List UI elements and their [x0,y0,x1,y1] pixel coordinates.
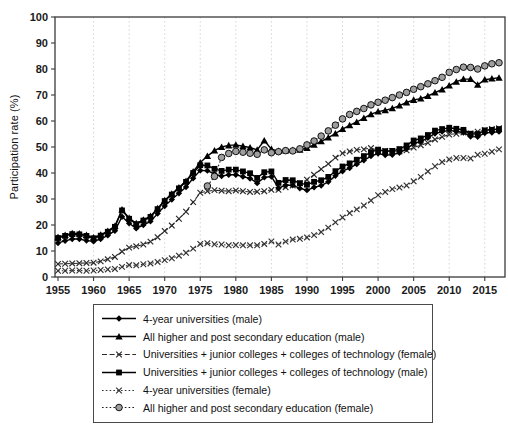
y-tick-label: 10 [36,245,48,257]
legend-item-0: 4-year universities (male) [101,310,424,328]
x-tick-label: 1990 [295,284,319,296]
data-series-3 [55,125,502,241]
legend-item-1: All higher and post secondary education … [101,328,424,346]
legend: 4-year universities (male)All higher and… [93,304,433,423]
y-tick-label: 0 [42,271,48,283]
x-tick-label: 2005 [401,284,425,296]
x-tick-label: 1995 [330,284,354,296]
y-axis-title: Participation rate (%) [8,66,20,228]
y-tick-label: 30 [36,193,48,205]
legend-item-2: Universities + junior colleges + college… [101,346,424,364]
y-tick-label: 90 [36,37,48,49]
y-tick-label: 50 [36,141,48,153]
x-tick-label: 1965 [117,284,141,296]
legend-label: 4-year universities (male) [143,313,262,325]
legend-label: All higher and post secondary education … [143,331,364,343]
square-marker-icon [101,366,137,379]
y-tick-label: 80 [36,63,48,75]
legend-label: 4-year universities (female) [143,384,271,396]
plot-border [55,17,505,277]
triangle-marker-icon [101,330,137,343]
x-tick-label: 2000 [366,284,390,296]
x-tick-label: 2010 [437,284,461,296]
y-tick-label: 70 [36,89,48,101]
x-marker-icon [101,348,137,361]
y-tick-label: 100 [30,11,48,23]
chart-figure: 0102030405060708090100195519601965197019… [0,0,508,427]
legend-item-3: Universities + junior colleges + college… [101,363,424,381]
x-tick-label: 1960 [81,284,105,296]
x-tick-label: 1955 [46,284,70,296]
x-tick-label: 1980 [224,284,248,296]
legend-label: Universities + junior colleges + college… [143,366,427,378]
y-tick-label: 40 [36,167,48,179]
x-tick-label: 1975 [188,284,212,296]
x-tick-label: 2015 [473,284,497,296]
diamond-marker-icon [101,312,137,325]
x-tick-label: 1985 [259,284,283,296]
data-series-2 [55,125,502,266]
data-series-0 [55,127,502,246]
legend-label: Universities + junior colleges + college… [143,348,436,360]
x-tick-label: 1970 [152,284,176,296]
x-marker-icon [101,384,137,397]
legend-label: All higher and post secondary education … [143,402,373,414]
legend-item-5: All higher and post secondary education … [101,399,424,417]
circle-marker-icon [101,401,137,414]
line-chart-plot: 0102030405060708090100195519601965197019… [0,0,508,303]
legend-item-4: 4-year universities (female) [101,381,424,399]
y-tick-label: 20 [36,219,48,231]
y-tick-label: 60 [36,115,48,127]
